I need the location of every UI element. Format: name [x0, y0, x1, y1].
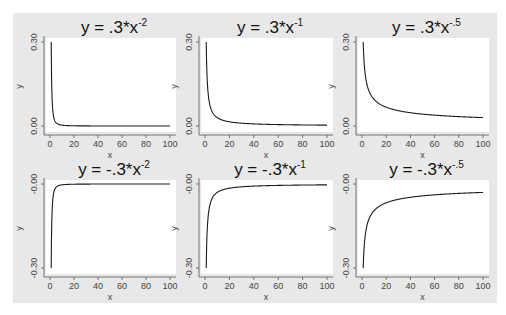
- plot-area: [46, 180, 176, 274]
- x-axis-label: x: [264, 292, 269, 302]
- y-tick-label: -0.30: [29, 258, 39, 279]
- plot-area: [201, 180, 333, 274]
- x-tick-label: 100: [162, 139, 177, 149]
- y-axis-label: y: [14, 226, 24, 231]
- x-tick-label: 60: [430, 139, 440, 149]
- x-tick-label: 40: [93, 139, 103, 149]
- y-tick-label: -0.30: [184, 258, 194, 279]
- y-tick-label: 0.30: [29, 33, 39, 51]
- x-tick-label: 0: [47, 139, 52, 149]
- x-tick-label: 80: [454, 139, 464, 149]
- plot-area: [201, 38, 333, 132]
- y-tick-label: -0.00: [184, 174, 194, 195]
- y-axis-label: y: [169, 226, 179, 231]
- panel-title: y = .3*x-1: [237, 17, 304, 37]
- x-tick-label: 20: [69, 281, 79, 291]
- x-tick-label: 0: [359, 281, 364, 291]
- x-tick-label: 20: [224, 139, 234, 149]
- x-axis-label: x: [108, 150, 113, 160]
- x-tick-label: 60: [117, 281, 127, 291]
- x-tick-label: 40: [249, 139, 259, 149]
- plot-area: [358, 38, 489, 132]
- x-tick-label: 80: [298, 281, 308, 291]
- panel-5: 020406080100-0.30-0.00xyy = -.3*x-1: [169, 159, 335, 302]
- x-tick-label: 40: [249, 281, 259, 291]
- y-axis-label: y: [326, 226, 336, 231]
- y-tick-label: 0.00: [184, 117, 194, 135]
- x-tick-label: 20: [224, 281, 234, 291]
- x-tick-label: 20: [381, 281, 391, 291]
- x-tick-label: 60: [273, 139, 283, 149]
- x-tick-label: 60: [430, 281, 440, 291]
- x-tick-label: 0: [202, 139, 207, 149]
- panel-title: y = .3*x-.5: [392, 17, 461, 37]
- x-tick-label: 60: [273, 281, 283, 291]
- y-tick-label: -0.30: [341, 258, 351, 279]
- x-tick-label: 40: [93, 281, 103, 291]
- panel-4: 020406080100-0.30-0.00xyy = -.3*x-2: [14, 159, 178, 302]
- panel-title: y = -.3*x-1: [234, 159, 306, 179]
- x-axis-label: x: [264, 150, 269, 160]
- panel-1: 0204060801000.000.30xyy = .3*x-2: [14, 17, 178, 160]
- panel-6: 020406080100-0.30-0.00xyy = -.3*x-.5: [326, 159, 491, 302]
- x-tick-label: 80: [141, 139, 151, 149]
- y-tick-label: 0.00: [341, 117, 351, 135]
- panel-title: y = .3*x-2: [81, 17, 148, 37]
- x-tick-label: 100: [475, 139, 490, 149]
- x-tick-label: 0: [47, 281, 52, 291]
- y-tick-label: -0.00: [29, 174, 39, 195]
- panel-3: 0204060801000.000.30xyy = .3*x-.5: [326, 17, 491, 160]
- x-tick-label: 40: [405, 281, 415, 291]
- x-tick-label: 100: [162, 281, 177, 291]
- y-tick-label: 0.30: [184, 33, 194, 51]
- x-tick-label: 100: [475, 281, 490, 291]
- plot-area: [358, 180, 489, 274]
- x-axis-label: x: [420, 292, 425, 302]
- y-axis-label: y: [14, 84, 24, 89]
- y-axis-label: y: [169, 84, 179, 89]
- y-axis-label: y: [326, 84, 336, 89]
- x-axis-label: x: [420, 150, 425, 160]
- x-tick-label: 100: [319, 281, 334, 291]
- x-axis-label: x: [108, 292, 113, 302]
- plot-area: [46, 38, 176, 132]
- x-tick-label: 40: [405, 139, 415, 149]
- y-tick-label: -0.00: [341, 174, 351, 195]
- panel-2: 0204060801000.000.30xyy = .3*x-1: [169, 17, 335, 160]
- x-tick-label: 80: [298, 139, 308, 149]
- x-tick-label: 80: [454, 281, 464, 291]
- x-tick-label: 80: [141, 281, 151, 291]
- combined-graph: 0204060801000.000.30xyy = .3*x-202040608…: [0, 0, 506, 315]
- x-tick-label: 20: [381, 139, 391, 149]
- y-tick-label: 0.00: [29, 117, 39, 135]
- x-tick-label: 20: [69, 139, 79, 149]
- x-tick-label: 0: [202, 281, 207, 291]
- x-tick-label: 60: [117, 139, 127, 149]
- panel-title: y = -.3*x-2: [78, 159, 150, 179]
- x-tick-label: 100: [319, 139, 334, 149]
- y-tick-label: 0.30: [341, 33, 351, 51]
- panel-title: y = -.3*x-.5: [389, 159, 464, 179]
- x-tick-label: 0: [359, 139, 364, 149]
